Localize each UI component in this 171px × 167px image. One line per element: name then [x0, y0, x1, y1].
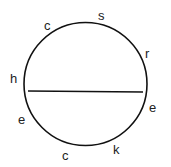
letter-label: k: [113, 142, 120, 157]
circle-diagram: csrheeck: [0, 0, 171, 167]
letter-label: r: [145, 46, 150, 61]
chord-line: [28, 91, 143, 92]
letter-label: e: [149, 100, 156, 115]
letter-label: e: [18, 112, 25, 127]
letter-label: s: [98, 8, 105, 23]
letter-label: c: [44, 18, 51, 33]
letter-labels: csrheeck: [10, 8, 156, 163]
circle: [24, 23, 147, 146]
letter-label: c: [62, 148, 69, 163]
letter-label: h: [10, 71, 17, 86]
